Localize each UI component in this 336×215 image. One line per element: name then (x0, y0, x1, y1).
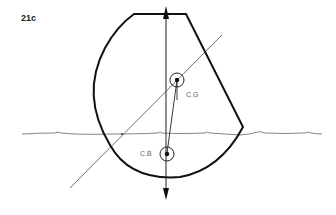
cg-label: C.G (186, 91, 198, 98)
cb-label: C.B (140, 150, 152, 157)
waterline (22, 132, 322, 135)
cb-dot-icon (165, 152, 169, 156)
stability-diagram: C.G C.B (0, 0, 336, 215)
hull-centerline (70, 35, 222, 188)
waterline-tick (121, 133, 123, 135)
cg-cb-connector (167, 80, 177, 153)
arrow-down-icon (163, 188, 169, 200)
arrow-up-icon (163, 6, 169, 19)
cg-dot-icon (175, 78, 179, 82)
